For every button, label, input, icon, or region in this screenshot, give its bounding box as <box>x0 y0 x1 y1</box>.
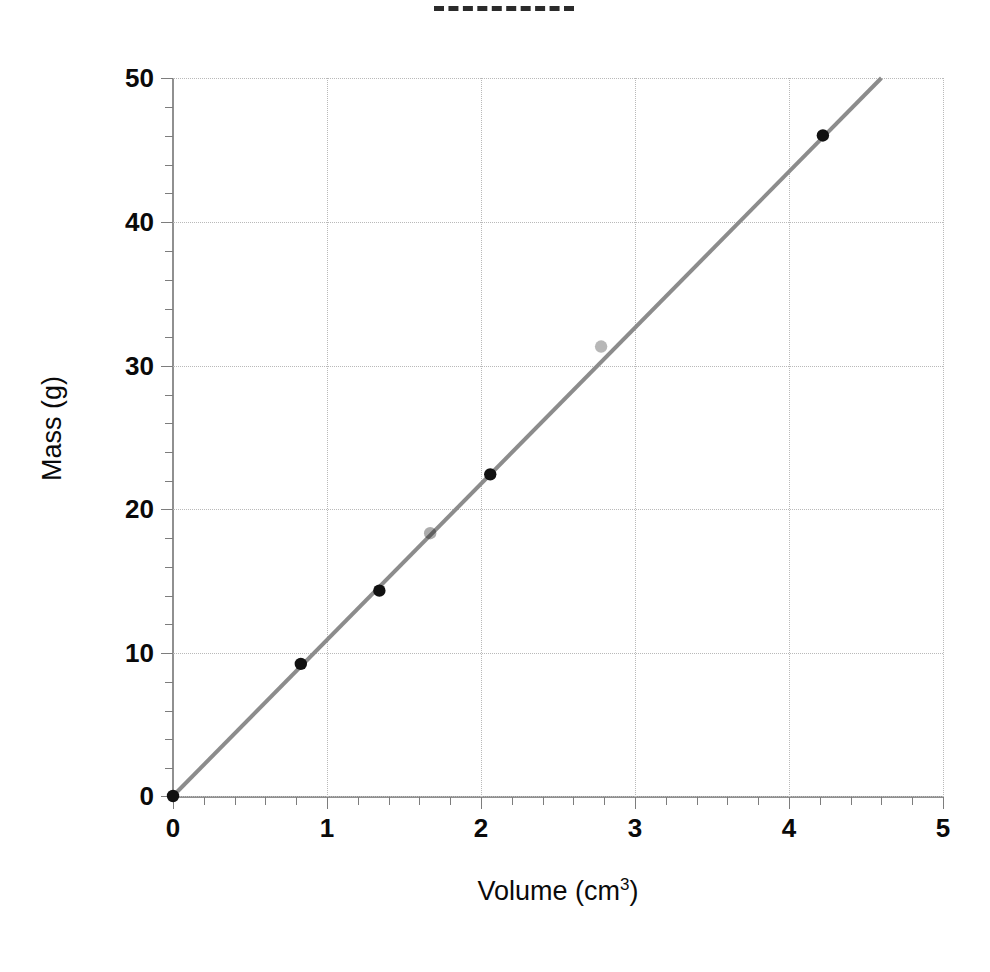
x-minor-tick <box>758 797 759 805</box>
x-ticklabel-1: 1 <box>287 815 367 841</box>
x-minor-tick <box>512 797 513 805</box>
x-axis-title-base: Volume (cm <box>477 876 620 906</box>
y-tick-30 <box>161 366 173 367</box>
x-tick-0 <box>173 797 174 809</box>
y-axis-line <box>172 78 174 798</box>
y-minor-tick <box>165 452 173 453</box>
y-minor-tick <box>165 567 173 568</box>
y-ticklabel-40: 40 <box>34 209 154 235</box>
x-tick-1 <box>327 797 328 809</box>
x-ticklabel-4: 4 <box>749 815 829 841</box>
x-minor-tick <box>666 797 667 805</box>
x-tick-4 <box>789 797 790 809</box>
y-minor-tick <box>165 682 173 683</box>
x-minor-tick <box>296 797 297 805</box>
y-minor-tick <box>165 395 173 396</box>
data-point-marker <box>424 527 436 539</box>
x-axis-title-superscript: 3 <box>620 875 629 894</box>
y-ticklabel-0: 0 <box>34 783 154 809</box>
data-point-marker <box>595 340 607 352</box>
y-minor-tick <box>165 337 173 338</box>
y-minor-tick <box>165 596 173 597</box>
gridline-y-10 <box>173 653 943 654</box>
x-minor-tick <box>235 797 236 805</box>
best-fit-line <box>173 78 881 796</box>
x-ticklabel-2: 2 <box>441 815 521 841</box>
y-axis-title: Mass (g) <box>37 329 68 529</box>
x-tick-5 <box>943 797 944 809</box>
x-minor-tick <box>450 797 451 805</box>
y-minor-tick <box>165 739 173 740</box>
x-minor-tick <box>604 797 605 805</box>
gridline-y-20 <box>173 509 943 510</box>
x-minor-tick <box>851 797 852 805</box>
y-minor-tick <box>165 309 173 310</box>
y-minor-tick <box>165 165 173 166</box>
y-minor-tick <box>165 423 173 424</box>
chart-figure: 50 40 30 20 10 0 0 1 2 3 4 5 Mass (g) Vo… <box>0 0 990 972</box>
x-minor-tick <box>881 797 882 805</box>
x-minor-tick <box>419 797 420 805</box>
y-tick-20 <box>161 509 173 510</box>
gridline-y-30 <box>173 366 943 367</box>
x-ticklabel-0: 0 <box>133 815 213 841</box>
data-point-marker <box>373 584 385 596</box>
x-ticklabel-3: 3 <box>595 815 675 841</box>
gridline-y-50 <box>173 78 943 79</box>
y-minor-tick <box>165 538 173 539</box>
data-point-marker <box>295 658 307 670</box>
y-minor-tick <box>165 711 173 712</box>
gridline-x-2 <box>481 78 482 797</box>
x-minor-tick <box>543 797 544 805</box>
top-dashed-artifact <box>434 6 574 19</box>
data-point-marker <box>817 129 829 141</box>
gridline-y-0 <box>173 796 943 797</box>
y-ticklabel-50: 50 <box>34 65 154 91</box>
x-minor-tick <box>265 797 266 805</box>
y-minor-tick <box>165 624 173 625</box>
gridline-x-5 <box>943 78 944 797</box>
y-minor-tick <box>165 481 173 482</box>
x-minor-tick <box>358 797 359 805</box>
x-minor-tick <box>389 797 390 805</box>
gridline-x-1 <box>327 78 328 797</box>
x-minor-tick <box>727 797 728 805</box>
x-minor-tick <box>912 797 913 805</box>
x-minor-tick <box>573 797 574 805</box>
y-tick-0 <box>161 796 173 797</box>
x-axis-title: Volume (cm3) <box>173 876 943 907</box>
x-axis-title-tail: ) <box>630 876 639 906</box>
x-minor-tick <box>697 797 698 805</box>
y-tick-40 <box>161 222 173 223</box>
y-minor-tick <box>165 107 173 108</box>
y-ticklabel-10: 10 <box>34 640 154 666</box>
gridline-y-40 <box>173 222 943 223</box>
data-point-marker <box>484 468 496 480</box>
gridline-x-3 <box>635 78 636 797</box>
y-tick-10 <box>161 653 173 654</box>
y-tick-50 <box>161 78 173 79</box>
x-tick-2 <box>481 797 482 809</box>
y-minor-tick <box>165 193 173 194</box>
x-tick-3 <box>635 797 636 809</box>
x-minor-tick <box>204 797 205 805</box>
gridline-x-4 <box>789 78 790 797</box>
y-minor-tick <box>165 280 173 281</box>
y-minor-tick <box>165 768 173 769</box>
y-minor-tick <box>165 251 173 252</box>
x-ticklabel-5: 5 <box>903 815 983 841</box>
x-minor-tick <box>820 797 821 805</box>
y-minor-tick <box>165 136 173 137</box>
